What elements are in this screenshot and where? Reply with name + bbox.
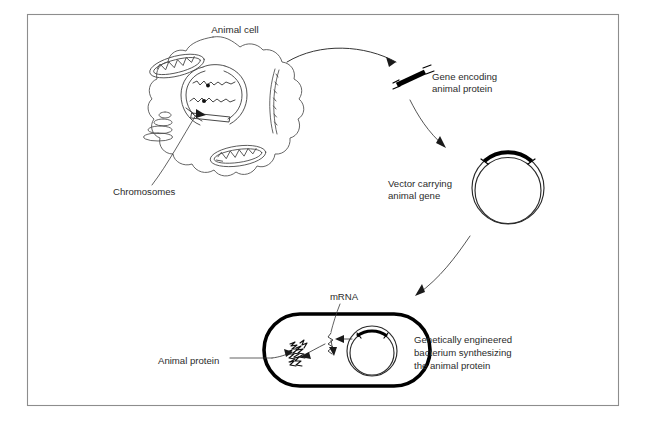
nuclear-envelope-top-gap bbox=[203, 65, 225, 67]
label-chromosomes: Chromosomes bbox=[113, 186, 176, 197]
arrow-cell-to-gene bbox=[287, 48, 396, 67]
vector-plasmid-group: Vector carrying animal gene bbox=[388, 152, 544, 224]
label-animal-protein: Animal protein bbox=[158, 355, 219, 366]
plasmid-inserted-gene-arc bbox=[485, 152, 532, 161]
label-bacterium-line2: bacterium synthesizing bbox=[414, 347, 512, 358]
figure-root: Animal cell Chromosomes Gene encoding an… bbox=[0, 0, 649, 428]
animal-cell-group: Animal cell Chromosomes bbox=[113, 24, 304, 197]
genetic-engineering-diagram: Animal cell Chromosomes Gene encoding an… bbox=[0, 0, 649, 428]
label-gene-encoding-line2: animal protein bbox=[432, 83, 492, 94]
endoplasmic-reticulum bbox=[270, 69, 279, 134]
gene-dna-fragment bbox=[397, 72, 425, 85]
nuclear-envelope-right bbox=[225, 66, 247, 124]
label-mrna: mRNA bbox=[330, 291, 359, 302]
chromosome-pointer-arrowhead bbox=[196, 109, 206, 118]
nuclear-envelope-right-inner bbox=[224, 71, 242, 119]
arrow-vector-to-bacterium bbox=[415, 236, 470, 296]
mitochondrion-lower bbox=[209, 142, 267, 170]
plasmid-inner-ring bbox=[475, 158, 541, 224]
label-vector-line1: Vector carrying bbox=[388, 178, 452, 189]
centromere-dot-1 bbox=[206, 84, 210, 88]
mitochondrion-upper bbox=[147, 50, 206, 83]
plasmid-outer-ring bbox=[472, 152, 544, 224]
arrow-gene-to-vector bbox=[410, 100, 446, 148]
gene-fragment-group: Gene encoding animal protein bbox=[393, 65, 497, 94]
label-bacterium-line3: the animal protein bbox=[414, 360, 490, 371]
label-gene-encoding-line1: Gene encoding bbox=[432, 71, 497, 82]
centromere-dot-2 bbox=[202, 99, 206, 103]
label-vector-line2: animal gene bbox=[388, 190, 440, 201]
chromosome-1 bbox=[193, 81, 235, 85]
chromosome-2 bbox=[190, 98, 235, 102]
engineered-bacterium-group: Animal protein mRNA Genetically engineer… bbox=[158, 291, 512, 386]
label-animal-cell: Animal cell bbox=[211, 24, 258, 35]
label-bacterium-line1: Genetically engineered bbox=[414, 334, 512, 345]
